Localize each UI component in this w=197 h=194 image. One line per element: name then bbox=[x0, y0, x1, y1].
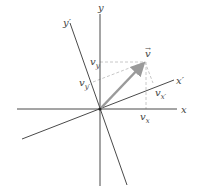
v-y-prime-label: vy′ bbox=[79, 77, 91, 91]
v-x-label: vx bbox=[140, 111, 150, 125]
v-x-prime-label: vx′ bbox=[155, 87, 167, 101]
vector-arrow-glyph: → bbox=[145, 45, 151, 53]
origin-dot bbox=[98, 107, 101, 110]
y-axis-label: y bbox=[97, 2, 104, 13]
y-prime-axis-label: y′ bbox=[62, 17, 72, 28]
y-prime-axis bbox=[70, 23, 127, 185]
x-axis-label: x bbox=[181, 104, 187, 115]
vector-v bbox=[100, 65, 142, 109]
vector-components-diagram: x y x′ y′ v → vy vy′ vx′ vx bbox=[0, 0, 197, 194]
x-prime-axis-label: x′ bbox=[176, 75, 185, 86]
v-y-prime-projection bbox=[93, 62, 145, 82]
axes bbox=[17, 14, 177, 186]
v-y-label: vy bbox=[90, 56, 101, 70]
